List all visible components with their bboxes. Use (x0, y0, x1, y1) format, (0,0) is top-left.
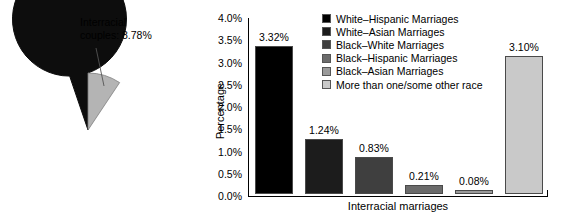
y-tick-label: 4.0% (218, 12, 242, 24)
legend-swatch-icon (322, 54, 331, 63)
legend-swatch-icon (322, 80, 331, 89)
bar-value-label: 3.32% (259, 31, 289, 43)
bar-value-label: 0.83% (359, 142, 389, 154)
bar-value-label: 0.21% (409, 170, 439, 182)
legend-item-label: White–Asian Marriages (336, 26, 445, 38)
y-tick-label: 0.5% (218, 168, 242, 180)
y-tick-label: 1.5% (218, 123, 242, 135)
figure-interracial-marriage-charts: Interracial couples: 8.78% Same-race cou… (0, 0, 566, 221)
legend-swatch-icon (322, 40, 331, 49)
legend-swatch-icon (322, 14, 331, 23)
bar[interactable] (505, 56, 543, 194)
y-tick-label: 2.0% (218, 101, 242, 113)
chart-legend: White–Hispanic MarriagesWhite–Asian Marr… (322, 12, 483, 91)
legend-item-label: White–Hispanic Marriages (336, 13, 459, 25)
legend-swatch-icon (322, 27, 331, 36)
x-axis-title: Interracial marriages (248, 200, 548, 212)
y-tick-label: 2.5% (218, 79, 242, 91)
pie-slice-interracial (88, 73, 120, 130)
legend-item[interactable]: White–Asian Marriages (322, 25, 483, 38)
legend-item[interactable]: Black–Asian Marriages (322, 65, 483, 78)
pie-label-same-race-couples: Same-race couples: 91.22% (14, 131, 164, 157)
bar-value-label: 1.24% (309, 124, 339, 136)
legend-item-label: Black–Asian Marriages (336, 65, 443, 77)
bar[interactable] (305, 139, 343, 194)
legend-item[interactable]: Black–Hispanic Marriages (322, 52, 483, 65)
y-tick-label: 3.0% (218, 57, 242, 69)
legend-item[interactable]: White–Hispanic Marriages (322, 12, 483, 25)
legend-item[interactable]: Black–White Marriages (322, 38, 483, 51)
legend-item-label: Black–Hispanic Marriages (336, 52, 457, 64)
pie-label-same-race-line1: Same-race (14, 131, 164, 144)
pie-label-interracial-line1: Interracial (80, 16, 152, 29)
y-tick-label: 3.5% (218, 34, 242, 46)
bar-chart-panel: Percentage 0.0%0.5%1.0%1.5%2.0%2.5%3.0%3… (190, 0, 566, 221)
legend-item-label: More than one/some other race (336, 79, 483, 91)
bar-value-label: 0.08% (459, 175, 489, 187)
bar-value-label: 3.10% (509, 41, 539, 53)
bar[interactable] (355, 157, 393, 194)
legend-item[interactable]: More than one/some other race (322, 78, 483, 91)
y-tick-label: 1.0% (218, 146, 242, 158)
pie-label-interracial-line2: couples: 8.78% (80, 29, 152, 42)
bar[interactable] (255, 46, 293, 194)
legend-swatch-icon (322, 67, 331, 76)
pie-label-interracial-couples: Interracial couples: 8.78% (80, 16, 152, 42)
bar[interactable] (405, 185, 443, 194)
bar[interactable] (455, 190, 493, 194)
legend-item-label: Black–White Marriages (336, 39, 444, 51)
pie-label-same-race-line2: couples: 91.22% (14, 144, 164, 157)
pie-chart-panel: Interracial couples: 8.78% Same-race cou… (0, 0, 190, 221)
y-tick-label: 0.0% (218, 190, 242, 202)
